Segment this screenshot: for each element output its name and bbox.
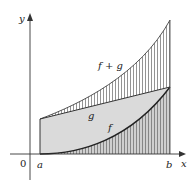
y-axis-label: y — [18, 13, 25, 24]
sum-of-functions-diagram: y x 0 a b f + g g f — [0, 0, 196, 188]
g-label: g — [88, 110, 94, 121]
y-axis-arrow-icon — [27, 13, 33, 21]
origin-label: 0 — [20, 158, 26, 169]
b-tick-label: b — [166, 159, 172, 170]
x-axis-arrow-icon — [179, 151, 186, 157]
a-tick-label: a — [37, 159, 43, 170]
x-axis-label: x — [181, 158, 187, 169]
f-plus-g-label: f + g — [97, 60, 123, 71]
